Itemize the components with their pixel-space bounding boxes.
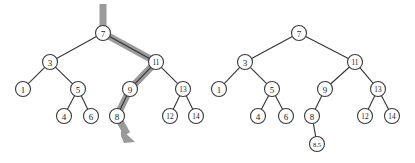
tree-node-label: 8.5 — [313, 141, 321, 148]
tree-node[interactable]: 4 — [57, 109, 72, 124]
tree-node-label: 12 — [166, 112, 174, 121]
tree-node[interactable]: 8.5 — [310, 137, 325, 152]
tree-node[interactable]: 3 — [43, 55, 58, 70]
tree-node[interactable]: 3 — [238, 55, 253, 70]
tree-node-label: 5 — [76, 85, 81, 95]
tree-node-label: 3 — [48, 58, 53, 68]
tree-node-label: 11 — [351, 58, 358, 67]
tree-edge — [331, 67, 350, 84]
tree-node-label: 8 — [115, 112, 120, 122]
tree-node[interactable]: 14 — [189, 109, 204, 124]
tree-edge — [252, 37, 293, 59]
tree-node[interactable]: 8 — [305, 109, 320, 124]
tree-panel-after: 73111591346812148.5 — [212, 26, 400, 152]
tree-node[interactable]: 6 — [279, 109, 294, 124]
tree-edge — [57, 37, 97, 59]
tree-edge — [81, 96, 88, 109]
tree-edge — [261, 96, 268, 110]
tree-node[interactable]: 13 — [176, 82, 191, 97]
tree-node-label: 7 — [101, 29, 106, 39]
tree-node-label: 3 — [243, 58, 248, 68]
tree-node-label: 13 — [179, 85, 187, 94]
tree-node[interactable]: 9 — [123, 82, 138, 97]
tree-node-label: 1 — [21, 85, 26, 95]
tree-node[interactable]: 1 — [212, 82, 227, 97]
tree-node-label: 9 — [323, 85, 328, 95]
binary-tree-insertion-figure: 731115913468121473111591346812148.5 — [0, 0, 415, 163]
tree-edge — [186, 96, 193, 109]
tree-diagram-canvas: 731115913468121473111591346812148.5 — [0, 0, 415, 163]
tree-edge — [368, 96, 375, 109]
tree-node-label: 8 — [310, 112, 315, 122]
tree-node-label: 9 — [128, 85, 133, 95]
tree-node[interactable]: 11 — [149, 55, 164, 70]
tree-node-label: 6 — [89, 112, 94, 122]
tree-node[interactable]: 13 — [371, 82, 386, 97]
tree-node[interactable]: 4 — [251, 109, 266, 124]
tree-edge — [55, 67, 72, 84]
tree-node-label: 6 — [284, 112, 289, 122]
tree-node[interactable]: 9 — [318, 82, 333, 97]
tree-node-label: 5 — [270, 85, 275, 95]
tree-node[interactable]: 12 — [358, 109, 373, 124]
tree-node[interactable]: 7 — [96, 26, 111, 41]
tree-node-label: 11 — [152, 58, 159, 67]
tree-edge — [67, 96, 74, 110]
tree-panel-before: 7311159134681214 — [16, 4, 204, 143]
tree-edge — [360, 68, 373, 84]
tree-node-label: 14 — [388, 112, 396, 121]
tree-edge — [135, 67, 151, 83]
tree-node-label: 4 — [256, 112, 261, 122]
tree-node-label: 7 — [297, 29, 302, 39]
tree-node-label: 12 — [361, 112, 369, 121]
tree-node[interactable]: 8 — [110, 109, 125, 124]
tree-node[interactable]: 1 — [16, 82, 31, 97]
tree-edge — [275, 96, 282, 110]
tree-node[interactable]: 11 — [348, 55, 363, 70]
tree-edge — [173, 96, 180, 109]
tree-edge — [381, 96, 388, 110]
tree-edge — [110, 37, 150, 59]
tree-node[interactable]: 12 — [163, 109, 178, 124]
tree-edge — [224, 67, 240, 83]
tree-edge — [161, 67, 177, 83]
tree-node[interactable]: 6 — [84, 109, 99, 124]
tree-node-label: 13 — [374, 85, 382, 94]
tree-edge — [315, 96, 322, 109]
tree-node[interactable]: 5 — [265, 82, 280, 97]
tree-node[interactable]: 14 — [385, 109, 400, 124]
tree-node-label: 1 — [217, 85, 222, 95]
tree-edge — [313, 123, 315, 136]
tree-edge — [250, 67, 266, 83]
tree-edge — [28, 67, 44, 83]
tree-node[interactable]: 7 — [292, 26, 307, 41]
tree-edge — [306, 36, 349, 58]
tree-node-label: 14 — [192, 112, 200, 121]
tree-node[interactable]: 5 — [71, 82, 86, 97]
tree-node-label: 4 — [62, 112, 67, 122]
